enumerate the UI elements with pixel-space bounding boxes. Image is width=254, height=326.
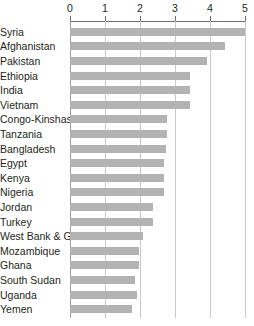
bar-row [70, 98, 245, 113]
bar-row [70, 200, 245, 215]
category-label-row: Bangladesh [0, 141, 70, 156]
category-label-row: Pakistan [0, 54, 70, 69]
x-tick-label: 3 [165, 2, 185, 14]
bar-row [70, 229, 245, 244]
bar [70, 115, 167, 123]
bar [70, 261, 139, 269]
bar [70, 101, 190, 109]
bar [70, 57, 207, 65]
category-label: Tanzania [0, 128, 42, 140]
category-label-row: Ethiopia [0, 68, 70, 83]
bar [70, 86, 190, 94]
bar-row [70, 54, 245, 69]
category-label: Egypt [0, 157, 27, 169]
category-label-row: Afghanistan [0, 39, 70, 54]
bar-row [70, 244, 245, 259]
category-label: Congo-Kinshasa [0, 113, 78, 125]
bar-row [70, 112, 245, 127]
category-label: Turkey [0, 216, 32, 228]
bar-row [70, 25, 245, 40]
category-label: Bangladesh [0, 143, 55, 155]
bar-row [70, 141, 245, 156]
bar [70, 291, 137, 299]
category-label-row: Tanzania [0, 127, 70, 142]
bar-row [70, 185, 245, 200]
bar [70, 145, 166, 153]
bar [70, 42, 225, 50]
bar [70, 276, 135, 284]
category-label-row: Mozambique [0, 244, 70, 259]
category-label: Nigeria [0, 186, 33, 198]
category-label: Pakistan [0, 55, 40, 67]
bar [70, 218, 153, 226]
plot-area [70, 21, 245, 318]
category-label-row: West Bank & Gaza [0, 229, 70, 244]
x-tick-label: 2 [130, 2, 150, 14]
category-label: Kenya [0, 172, 30, 184]
gridline-5 [245, 21, 246, 318]
x-tick-label: 4 [200, 2, 220, 14]
bar [70, 72, 190, 80]
category-label-row: Vietnam [0, 98, 70, 113]
category-label-row: Jordan [0, 200, 70, 215]
category-label: India [0, 84, 23, 96]
category-label-row: Uganda [0, 287, 70, 302]
category-label-row: South Sudan [0, 273, 70, 288]
bar [70, 28, 245, 36]
category-label-row: Egypt [0, 156, 70, 171]
bar-rows [70, 21, 245, 318]
category-labels: SyriaAfghanistanPakistanEthiopiaIndiaVie… [0, 21, 70, 318]
category-label-row: Turkey [0, 214, 70, 229]
category-label-row: Congo-Kinshasa [0, 112, 70, 127]
bar-row [70, 83, 245, 98]
bar [70, 247, 139, 255]
bar-row [70, 287, 245, 302]
bar-row [70, 127, 245, 142]
category-label: Vietnam [0, 99, 38, 111]
bar-row [70, 214, 245, 229]
bar-row [70, 39, 245, 54]
bar [70, 232, 143, 240]
bar [70, 203, 153, 211]
bar-row [70, 171, 245, 186]
category-label-row: Syria [0, 25, 70, 40]
bar-chart: 012345 SyriaAfghanistanPakistanEthiopiaI… [0, 0, 254, 326]
category-label-row: Nigeria [0, 185, 70, 200]
bar [70, 188, 164, 196]
bar [70, 130, 167, 138]
category-label: Uganda [0, 289, 37, 301]
bar [70, 305, 132, 313]
x-tick-label: 0 [60, 2, 80, 14]
bar-row [70, 68, 245, 83]
category-label: Mozambique [0, 245, 60, 257]
category-label: Jordan [0, 201, 32, 213]
category-label: Ghana [0, 259, 32, 271]
category-label-row: Kenya [0, 171, 70, 186]
bar-row [70, 156, 245, 171]
category-label: Afghanistan [0, 40, 55, 52]
bar-row [70, 273, 245, 288]
category-label-row: Yemen [0, 302, 70, 317]
category-label-row: Ghana [0, 258, 70, 273]
category-label: Syria [0, 26, 24, 38]
bar-row [70, 258, 245, 273]
category-label: South Sudan [0, 274, 61, 286]
bar [70, 159, 164, 167]
category-label-row: India [0, 83, 70, 98]
category-label: Yemen [0, 303, 32, 315]
x-tick-label: 5 [235, 2, 254, 14]
bar-row [70, 302, 245, 317]
category-label: Ethiopia [0, 70, 38, 82]
x-tick-label: 1 [95, 2, 115, 14]
bar [70, 174, 164, 182]
